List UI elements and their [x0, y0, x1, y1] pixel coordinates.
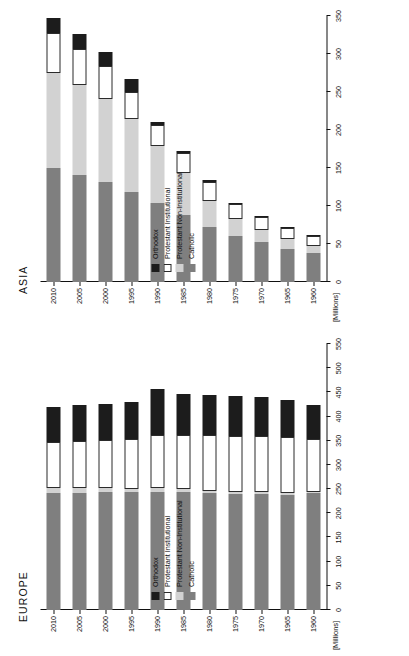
bar-asia-1995[interactable]: [124, 79, 139, 282]
bar-segment-asia-2010-catholic: [46, 168, 61, 282]
category-label-asia-1985: 1985: [179, 288, 188, 304]
bar-segment-asia-2005-prot-non: [72, 85, 87, 175]
category-tick-asia-1985: [183, 282, 184, 286]
category-label-asia-1960: 1960: [309, 288, 318, 304]
legend-item-europe-prot-inst[interactable]: Protestant Institutional: [162, 500, 171, 600]
bar-segment-europe-2005-catholic: [72, 493, 87, 610]
value-tick-europe-150: [326, 536, 330, 537]
value-tick-label-asia-100: 100: [333, 200, 342, 212]
legend-item-europe-prot-non[interactable]: Protestant Non-Institutional: [174, 500, 183, 600]
bar-segment-asia-1990-prot-inst: [150, 125, 165, 146]
value-tick-europe-50: [326, 585, 330, 586]
value-tick-label-asia-300: 300: [333, 48, 342, 60]
bar-segment-asia-1970-prot-inst: [254, 217, 269, 230]
bar-asia-2010[interactable]: [46, 18, 61, 282]
category-label-europe-1960: 1960: [309, 616, 318, 632]
bar-segment-asia-2005-catholic: [72, 175, 87, 282]
category-tick-europe-2010: [53, 610, 54, 614]
bar-segment-asia-2000-prot-non: [98, 99, 113, 183]
value-tick-label-europe-350: 350: [333, 435, 342, 447]
bar-segment-asia-1995-catholic: [124, 192, 139, 282]
bar-europe-2005[interactable]: [72, 405, 87, 610]
bar-segment-asia-2010-prot-non: [46, 73, 61, 168]
bar-segment-europe-1980-orthodox: [202, 395, 217, 435]
legend-item-asia-prot-non[interactable]: Protestant Non-Institutional: [174, 172, 183, 272]
bar-segment-asia-2010-orthodox: [46, 18, 61, 34]
category-label-asia-1965: 1965: [283, 288, 292, 304]
bar-asia-2005[interactable]: [72, 34, 87, 282]
bar-segment-asia-2005-prot-inst: [72, 49, 87, 85]
bar-europe-1995[interactable]: [124, 402, 139, 610]
legend-item-europe-catholic[interactable]: Catholic: [186, 500, 195, 600]
bar-segment-europe-1975-prot-non: [228, 492, 243, 494]
category-tick-europe-1980: [209, 610, 210, 614]
legend-label-europe-prot-non: Protestant Non-Institutional: [174, 500, 183, 587]
bar-segment-europe-2010-orthodox: [46, 407, 61, 442]
bar-segment-europe-1965-catholic: [280, 495, 295, 610]
category-label-europe-1985: 1985: [179, 616, 188, 632]
bar-asia-1980[interactable]: [202, 180, 217, 282]
legend-item-asia-orthodox[interactable]: Orthodox: [150, 172, 159, 272]
bar-segment-europe-2000-orthodox: [98, 404, 113, 440]
bar-asia-1970[interactable]: [254, 216, 269, 282]
bar-europe-2000[interactable]: [98, 404, 113, 610]
bar-segment-europe-1965-orthodox: [280, 400, 295, 437]
value-tick-label-europe-500: 500: [333, 362, 342, 374]
bar-segment-asia-1965-orthodox: [280, 227, 295, 228]
category-label-europe-2005: 2005: [75, 616, 84, 632]
legend-item-asia-prot-inst[interactable]: Protestant Institutional: [162, 172, 171, 272]
bar-segment-asia-1990-orthodox: [150, 122, 165, 124]
legend-swatch-prot-non-icon: [175, 592, 183, 600]
category-label-asia-1980: 1980: [205, 288, 214, 304]
bar-asia-2000[interactable]: [98, 52, 113, 282]
bar-segment-asia-1960-orthodox: [306, 236, 321, 237]
bar-segment-asia-2000-orthodox: [98, 52, 113, 66]
legend-item-europe-orthodox[interactable]: Orthodox: [150, 500, 159, 600]
bar-segment-asia-1980-orthodox: [202, 180, 217, 182]
bar-segment-asia-1995-prot-non: [124, 119, 139, 191]
value-tick-europe-200: [326, 512, 330, 513]
bar-segment-europe-1995-prot-inst: [124, 439, 139, 489]
bar-asia-1965[interactable]: [280, 227, 295, 282]
value-tick-label-asia-350: 350: [333, 10, 342, 22]
value-tick-label-europe-250: 250: [333, 483, 342, 495]
bar-segment-europe-1980-catholic: [202, 493, 217, 610]
bar-segment-europe-2000-prot-inst: [98, 440, 113, 488]
bar-europe-2010[interactable]: [46, 407, 61, 610]
category-label-asia-2010: 2010: [49, 288, 58, 304]
legend-swatch-orthodox-icon: [151, 264, 159, 272]
value-tick-asia-300: [326, 53, 330, 54]
bar-europe-1980[interactable]: [202, 395, 217, 610]
legend-item-asia-catholic[interactable]: Catholic: [186, 172, 195, 272]
bar-asia-1960[interactable]: [306, 236, 321, 282]
legend-label-europe-catholic: Catholic: [186, 561, 195, 587]
category-tick-asia-2010: [53, 282, 54, 286]
bar-europe-1975[interactable]: [228, 396, 243, 610]
bar-segment-asia-1970-orthodox: [254, 216, 269, 218]
panel-title-asia: ASIA: [16, 266, 28, 294]
bar-europe-1965[interactable]: [280, 400, 295, 610]
bar-segment-asia-1960-prot-inst: [306, 236, 321, 246]
category-label-asia-2005: 2005: [75, 288, 84, 304]
legend-label-europe-prot-inst: Protestant Institutional: [162, 516, 171, 587]
category-tick-europe-1970: [261, 610, 262, 614]
bar-asia-1975[interactable]: [228, 203, 243, 282]
bar-segment-europe-1995-prot-non: [124, 489, 139, 493]
value-tick-label-europe-0: 0: [333, 608, 342, 612]
category-tick-asia-1970: [261, 282, 262, 286]
bar-europe-1960[interactable]: [306, 405, 321, 610]
value-tick-label-asia-150: 150: [333, 162, 342, 174]
bar-segment-europe-1965-prot-inst: [280, 437, 295, 493]
bar-segment-europe-1970-prot-non: [254, 492, 269, 494]
bar-europe-1970[interactable]: [254, 397, 269, 610]
category-label-asia-1975: 1975: [231, 288, 240, 304]
value-tick-asia-350: [326, 15, 330, 16]
value-tick-europe-450: [326, 391, 330, 392]
bar-segment-asia-2000-prot-inst: [98, 66, 113, 99]
bar-segment-europe-1995-catholic: [124, 492, 139, 610]
value-tick-europe-100: [326, 561, 330, 562]
legend-asia: OrthodoxProtestant InstitutionalProtesta…: [150, 172, 198, 272]
legend-label-europe-orthodox: Orthodox: [150, 557, 159, 587]
bar-segment-europe-2005-orthodox: [72, 405, 87, 440]
category-tick-asia-1975: [235, 282, 236, 286]
